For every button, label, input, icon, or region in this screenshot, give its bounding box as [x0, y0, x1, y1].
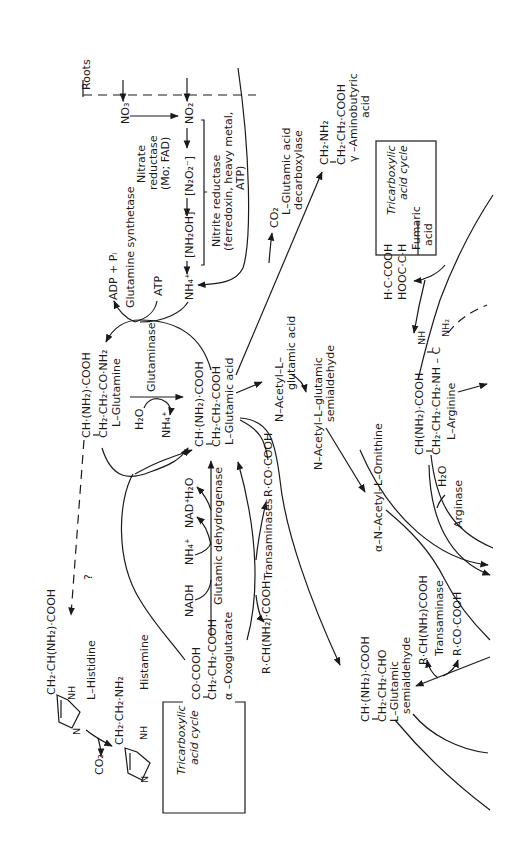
- oxoglutarate-name: α –Oxoglutarate: [222, 612, 235, 700]
- glutamic-dehydrogenase: Glutamic dehydrogenase NADH NH₄⁺ NAD⁺ H₂…: [183, 461, 225, 625]
- svg-text:NH₄⁺: NH₄⁺: [183, 538, 196, 565]
- arginase-water: H₂O: [436, 465, 449, 487]
- histamine-side-chain: CH₂·CH₂·NH₂: [113, 676, 126, 745]
- glutamine: CH·(NH₂)·COOH CH₂·CH₂·CO·NH₂ L–Glutamine: [80, 350, 123, 438]
- fumarate-line1: H·C·COOH: [382, 244, 395, 300]
- svg-text:acid: acid: [422, 223, 435, 246]
- svg-text:CH·(NH₂)·COOH: CH·(NH₂)·COOH: [359, 636, 372, 722]
- oxoglutarate: CO·COOH CH₂·CH₂·COOH α –Oxoglutarate: [190, 612, 235, 700]
- glutaminase: Glutaminase H₂O NH₄⁺: [130, 322, 183, 438]
- tca-cycle-top: Tricarboxylic acid cycle Fumaric acid H·…: [376, 141, 493, 380]
- svg-text:CH₂·CH₂·CO·NH₂: CH₂·CH₂·CO·NH₂: [97, 350, 110, 438]
- svg-text:glutamic acid: glutamic acid: [285, 316, 298, 390]
- transaminases-amino: R·CH(NH₂)·COOH: [260, 581, 273, 674]
- glutamine-name: L–Glutamine: [110, 358, 123, 427]
- unknown-link-label: ?: [82, 574, 95, 580]
- svg-text:(Mo; FAD): (Mo; FAD): [159, 137, 172, 190]
- svg-text:semialdehyde: semialdehyde: [324, 345, 337, 422]
- nitrate-assimilation: NO₃⁻ NO₂⁻ Nitrate reductase (Mo; FAD) [N…: [119, 68, 249, 300]
- svg-text:N: N: [71, 728, 82, 735]
- svg-text:NH: NH: [66, 686, 77, 700]
- histidine-name: L–Histidine: [85, 640, 98, 700]
- glutaminase-label: Glutaminase: [145, 322, 158, 392]
- nitrite-label: NO₂⁻: [183, 97, 196, 124]
- svg-text:H₂O: H₂O: [183, 477, 196, 499]
- transaminase-label: Transaminase: [433, 580, 446, 657]
- arginine: CH(NH₂)·COOH CH₂·CH₂·CH₂·NH – C NH NH₂ L…: [413, 280, 493, 575]
- svg-text:ATP): ATP): [234, 166, 247, 190]
- glutamine-synthetase-label: Glutamine synthetase: [124, 186, 137, 308]
- svg-text:CH₂·CH₂·COOH: CH₂·CH₂·COOH: [210, 366, 223, 447]
- nitrite-reductase-label: Nitrite reductase (ferredoxin, heavy met…: [210, 112, 247, 251]
- glutaminase-ammonium: NH₄⁺: [160, 411, 173, 438]
- svg-text:CH·(NH₂)·COOH: CH·(NH₂)·COOH: [80, 352, 93, 438]
- hydroxylamine-label: [NH₂OH]: [183, 212, 196, 258]
- ammonium-label: NH₄⁺: [183, 273, 196, 300]
- svg-text:acid: acid: [359, 95, 372, 118]
- roots-boundary: Roots: [80, 59, 256, 97]
- svg-text:NH₂: NH₂: [440, 319, 451, 337]
- glutamate-decarboxylation: CO₂ L–Glutamic acid decarboxylase: [236, 128, 322, 375]
- semialdehyde-keto: R·CO·COOH: [451, 592, 464, 656]
- histamine-name: Histamine: [138, 634, 151, 690]
- svg-text:CH₂·CH₂·COOH: CH₂·CH₂·COOH: [206, 619, 219, 700]
- histamine-co2: CO₂: [93, 754, 106, 775]
- gdh-label: Glutamic dehydrogenase: [212, 467, 225, 605]
- fumarate-line2: HOOC·C·H: [396, 244, 409, 300]
- glutaminase-water: H₂O: [133, 408, 146, 430]
- adp-pi-label: ADP + Pᵢ: [107, 253, 120, 300]
- svg-text:acid cycle: acid cycle: [397, 145, 410, 200]
- svg-text:NAD⁺: NAD⁺: [183, 498, 196, 528]
- hyponitrite-label: [N₂O₂⁻]: [183, 156, 196, 196]
- svg-text:acid cycle: acid cycle: [188, 710, 201, 765]
- acetyl-ornithine-label: α–N–Acetyl–L–Ornithine: [372, 423, 385, 552]
- nitrogen-metabolism-diagram: Roots NO₃⁻ NO₂⁻ Nitrate reductase (Mo; F…: [0, 0, 507, 864]
- histidine-side-chain: CH₂·CH(NH₂)·COOH: [45, 589, 58, 695]
- svg-text:CH₂·NH₂: CH₂·NH₂: [318, 120, 331, 165]
- svg-text:N: N: [139, 776, 150, 783]
- glutamic-acid-name: L–Glutamic acid: [223, 358, 236, 445]
- roots-label: Roots: [80, 59, 93, 90]
- svg-text:CH·(NH₂)·COOH: CH·(NH₂)·COOH: [193, 361, 206, 447]
- atp-label: ATP: [152, 276, 165, 296]
- svg-text:semialdehyde: semialdehyde: [400, 637, 413, 714]
- svg-text:NH: NH: [416, 331, 427, 345]
- svg-text:CH₂·CH₂·CH₂·NH – C: CH₂·CH₂·CH₂·NH – C: [430, 346, 443, 455]
- transaminases: Transaminases R·CO·COOH R·CH(NH₂)·COOH: [238, 433, 275, 674]
- histidine: ? CH₂·CH(NH₂)·COOH NH N L–Histidine: [45, 440, 98, 735]
- tca-cycle-bottom: Tricarboxylic acid cycle: [163, 702, 245, 813]
- svg-text:NH: NH: [138, 726, 149, 740]
- gaba: CH₂·NH₂ CH₂·CH₂·COOH γ –Aminobutyric aci…: [318, 73, 372, 165]
- svg-text:CO·COOH: CO·COOH: [190, 647, 203, 700]
- nitrate-label: NO₃⁻: [119, 97, 132, 124]
- svg-text:decarboxylase: decarboxylase: [292, 130, 305, 210]
- svg-text:CH(NH₂)·COOH: CH(NH₂)·COOH: [413, 373, 426, 455]
- connector-curve-bottom: [395, 720, 490, 810]
- semialdehyde-amino: R·CH(NH₂)COOH: [417, 575, 430, 665]
- svg-text:NADH: NADH: [183, 585, 196, 618]
- nitrate-reductase-label: Nitrate reductase (Mo; FAD): [135, 135, 172, 190]
- svg-text:Tricarboxylic: Tricarboxylic: [175, 705, 188, 775]
- arginine-name: L–Arginine: [445, 382, 458, 440]
